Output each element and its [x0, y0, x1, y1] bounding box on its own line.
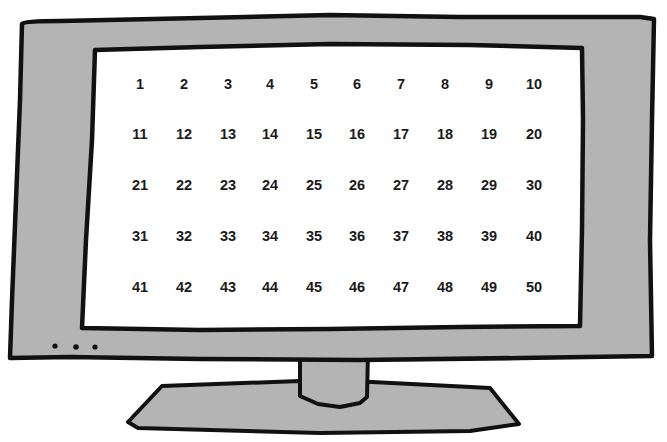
grid-number: 35 [306, 228, 322, 244]
grid-number: 32 [176, 228, 192, 244]
grid-number: 48 [437, 279, 453, 295]
grid-number: 45 [306, 279, 322, 295]
grid-number: 19 [481, 126, 497, 142]
grid-number: 31 [132, 228, 148, 244]
grid-number: 13 [220, 126, 236, 142]
grid-number: 24 [262, 177, 278, 193]
grid-number: 34 [262, 228, 278, 244]
grid-number: 47 [393, 279, 409, 295]
grid-number: 17 [393, 126, 409, 142]
grid-number: 28 [437, 177, 453, 193]
grid-number: 21 [132, 177, 148, 193]
grid-number: 26 [349, 177, 365, 193]
grid-number: 25 [306, 177, 322, 193]
grid-number: 8 [441, 76, 449, 92]
grid-number: 36 [349, 228, 365, 244]
grid-number: 44 [262, 279, 278, 295]
grid-number: 38 [437, 228, 453, 244]
grid-number: 42 [176, 279, 192, 295]
indicator-dot [52, 343, 57, 348]
grid-number: 49 [481, 279, 497, 295]
grid-number: 22 [176, 177, 192, 193]
grid-number: 33 [220, 228, 236, 244]
grid-number: 16 [349, 126, 365, 142]
grid-number: 39 [481, 228, 497, 244]
grid-number: 20 [526, 126, 542, 142]
grid-number: 18 [437, 126, 453, 142]
grid-number: 3 [224, 76, 232, 92]
monitor-illustration: 1234567891011121314151617181920212223242… [0, 0, 667, 442]
grid-number: 29 [481, 177, 497, 193]
grid-number: 50 [526, 279, 542, 295]
grid-number: 27 [393, 177, 409, 193]
grid-number: 10 [526, 76, 542, 92]
grid-number: 11 [132, 126, 147, 142]
grid-number: 46 [349, 279, 365, 295]
grid-number: 7 [397, 76, 405, 92]
grid-number: 6 [353, 76, 361, 92]
grid-number: 37 [393, 228, 409, 244]
grid-number: 23 [220, 177, 236, 193]
grid-number: 1 [136, 76, 144, 92]
indicator-dot [92, 344, 97, 349]
grid-number: 2 [180, 76, 188, 92]
grid-number: 15 [306, 126, 322, 142]
grid-number: 41 [132, 279, 148, 295]
grid-number: 5 [310, 76, 318, 92]
grid-number: 30 [526, 177, 542, 193]
grid-number: 14 [262, 126, 278, 142]
grid-number: 12 [176, 126, 192, 142]
indicator-dot [73, 344, 79, 350]
grid-number: 9 [485, 76, 493, 92]
monitor-screen [82, 44, 583, 330]
grid-number: 4 [266, 76, 274, 92]
grid-number: 43 [220, 279, 236, 295]
grid-number: 40 [526, 228, 542, 244]
